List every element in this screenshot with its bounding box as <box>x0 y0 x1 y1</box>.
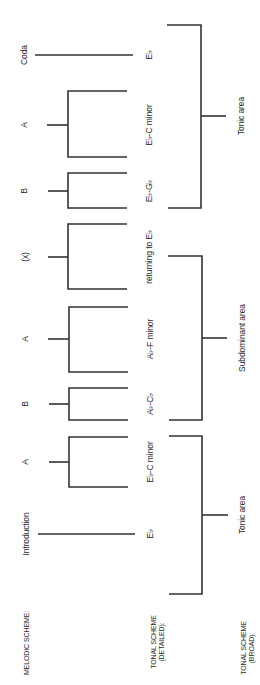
row-header-tonal-detailed: TONAL SCHEME (DETAILED): <box>150 615 165 669</box>
melodic-label-x: (x) <box>21 252 30 262</box>
form-diagram: Introduction A B A (x) B A Coda E♭ E♭-C … <box>0 0 260 685</box>
tonal-detailed-label-3: A♭-C♭ <box>146 393 155 415</box>
tonal-detailed-label-7: E♭-C minor <box>145 104 154 145</box>
tonal-detailed-label-1: E♭ <box>146 529 155 538</box>
tonal-broad-label-subdominant: Subdominant area <box>238 304 247 372</box>
melodic-label-a1: A <box>21 459 30 465</box>
bracket-x <box>68 224 127 289</box>
broad-bracket-tonic-bottom <box>169 436 202 594</box>
row-header-tonal-broad-line1: TONAL SCHEME <box>240 621 248 675</box>
melodic-label-b2: B <box>20 188 29 194</box>
row-header-tonal-detailed-line1: TONAL SCHEME <box>150 615 158 669</box>
tonal-broad-label-tonic-top: Tonic area <box>237 97 246 135</box>
tonal-detailed-label-2: E♭-C minor <box>146 441 155 482</box>
bracket-b1 <box>69 388 128 420</box>
row-header-tonal-broad-line2: (BROAD): <box>248 621 256 675</box>
broad-bracket-tonic-top <box>167 25 201 208</box>
row-header-melodic: MELODIC SCHEME: <box>23 611 31 675</box>
tonal-detailed-label-5: returning to E♭ <box>145 230 154 284</box>
melodic-label-a3: A <box>20 122 29 128</box>
melodic-label-a2: A <box>21 336 30 342</box>
tonal-detailed-label-8: E♭ <box>145 50 154 59</box>
bracket-lines <box>0 0 260 685</box>
bracket-a3 <box>68 91 127 157</box>
bracket-a2 <box>69 307 128 372</box>
row-header-tonal-broad: TONAL SCHEME (BROAD): <box>240 621 255 675</box>
tonal-broad-label-tonic-bottom: Tonic area <box>238 496 247 534</box>
row-header-tonal-detailed-line2: (DETAILED): <box>158 615 166 669</box>
broad-bracket-subdominant <box>168 256 202 420</box>
melodic-label-introduction: Introduction <box>22 512 31 555</box>
melodic-label-b1: B <box>21 401 30 407</box>
tonal-detailed-label-6: E♭-G♭ <box>145 180 154 203</box>
tonal-detailed-label-4: A♭-F minor <box>146 319 155 359</box>
bracket-b2 <box>68 173 127 208</box>
melodic-label-coda: Coda <box>20 45 29 65</box>
bracket-a1 <box>69 437 128 487</box>
